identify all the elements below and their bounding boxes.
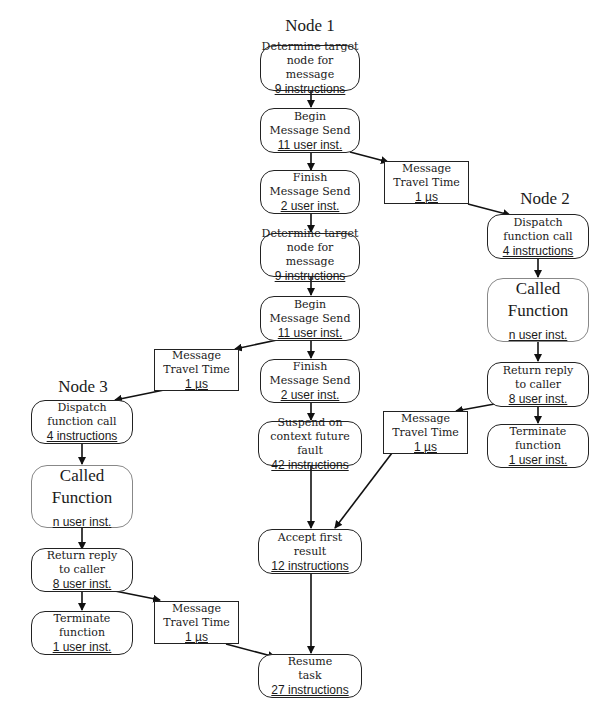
box-title: Called <box>516 278 560 300</box>
box-title: Terminate <box>510 425 567 439</box>
box-cost: 42 instructions <box>271 458 348 472</box>
box-title: function call <box>503 230 572 244</box>
node-3-label: Node 3 <box>43 377 123 397</box>
n1-suspend-box: Suspend on context future fault 42 instr… <box>258 421 362 466</box>
box-cost: 8 user inst. <box>509 392 568 406</box>
box-title: Travel Time <box>392 426 459 440</box>
box-title: Message <box>172 349 221 363</box>
box-cost: 9 instructions <box>275 82 346 96</box>
n3-return-reply-box: Return reply to caller 8 user inst. <box>31 548 133 592</box>
box-cost: 27 instructions <box>271 683 348 697</box>
travel-time-box-2-to-1: Message Travel Time 1 µs <box>383 411 468 454</box>
box-title: Resume <box>288 655 332 669</box>
n1-determine-target-box-2: Determine target node for message 9 inst… <box>260 233 360 277</box>
box-title: Terminate <box>54 612 111 626</box>
box-cost: 9 instructions <box>275 269 346 283</box>
box-title: Accept first <box>278 531 342 545</box>
box-cost: 2 user inst. <box>281 388 340 402</box>
box-title: Message <box>402 162 451 176</box>
n2-called-function-box: Called Function n user inst. <box>487 278 589 342</box>
box-cost: 2 user inst. <box>281 199 340 213</box>
node-2-label: Node 2 <box>505 189 585 209</box>
box-title: Return reply <box>503 364 574 378</box>
box-title: Return reply <box>47 549 118 563</box>
n1-finish-send-box-2: Finish Message Send 2 user inst. <box>260 359 360 403</box>
box-title: Travel Time <box>393 176 460 190</box>
node-1-label: Node 1 <box>270 16 350 36</box>
box-cost: n user inst. <box>509 328 568 342</box>
box-cost: 1 user inst. <box>53 640 112 654</box>
box-title: Travel Time <box>163 616 230 630</box>
box-title: Determine target <box>262 227 359 241</box>
n2-terminate-box: Terminate function 1 user inst. <box>487 424 589 468</box>
box-cost: 1 µs <box>185 630 208 644</box>
box-cost: 1 µs <box>414 440 437 454</box>
box-cost: 8 user inst. <box>53 577 112 591</box>
n1-resume-task-box: Resume task 27 instructions <box>258 654 362 698</box>
travel-time-box-1-to-2: Message Travel Time 1 µs <box>384 161 469 204</box>
box-title: Message <box>172 602 221 616</box>
box-cost: n user inst. <box>53 515 112 529</box>
box-title: result <box>294 545 326 559</box>
box-cost: 1 user inst. <box>509 453 568 467</box>
box-title: Begin <box>294 110 326 124</box>
box-title: task <box>298 669 321 683</box>
box-title: Suspend on <box>277 416 342 430</box>
box-cost: 11 user inst. <box>278 326 342 340</box>
box-title: Message Send <box>270 374 351 388</box>
box-title: to caller <box>515 378 561 392</box>
box-cost: 4 instructions <box>503 244 574 258</box>
n3-dispatch-box: Dispatch function call 4 instructions <box>31 400 133 444</box>
box-cost: 12 instructions <box>271 559 348 573</box>
box-title: Dispatch <box>513 216 562 230</box>
box-title: Message Send <box>270 124 351 138</box>
travel-time-box-1-to-3: Message Travel Time 1 µs <box>154 349 239 391</box>
n1-determine-target-box-1: Determine target node for message 9 inst… <box>260 45 360 91</box>
n1-finish-send-box-1: Finish Message Send 2 user inst. <box>260 170 360 214</box>
box-title: Called <box>60 465 104 487</box>
box-cost: 1 µs <box>415 190 438 204</box>
box-title: context future fault <box>259 430 361 458</box>
box-title: Finish <box>293 171 327 185</box>
n3-called-function-box: Called Function n user inst. <box>31 465 133 528</box>
box-title: node for message <box>261 54 359 82</box>
box-title: Function <box>508 300 568 322</box>
box-title: Determine target <box>262 40 359 54</box>
n2-dispatch-box: Dispatch function call 4 instructions <box>487 214 589 259</box>
box-title: Message Send <box>270 185 351 199</box>
n1-begin-send-box-1: Begin Message Send 11 user inst. <box>260 108 360 153</box>
box-title: Travel Time <box>163 363 230 377</box>
box-cost: 4 instructions <box>47 429 118 443</box>
box-title: function call <box>47 415 116 429</box>
n3-terminate-box: Terminate function 1 user inst. <box>31 611 133 655</box>
box-title: Dispatch <box>57 401 106 415</box>
n2-return-reply-box: Return reply to caller 8 user inst. <box>487 362 589 407</box>
travel-time-box-3-to-1: Message Travel Time 1 µs <box>154 601 239 644</box>
box-title: Message Send <box>270 312 351 326</box>
n1-begin-send-box-2: Begin Message Send 11 user inst. <box>260 296 360 341</box>
box-title: Message <box>401 412 450 426</box>
box-title: node for message <box>261 241 359 269</box>
n1-accept-result-box: Accept first result 12 instructions <box>258 529 362 574</box>
box-title: function <box>59 626 105 640</box>
box-cost: 1 µs <box>185 377 208 391</box>
box-title: Function <box>52 487 112 509</box>
box-cost: 11 user inst. <box>278 138 342 152</box>
box-title: Begin <box>294 298 326 312</box>
box-title: function <box>515 439 561 453</box>
box-title: Finish <box>293 360 327 374</box>
box-title: to caller <box>59 563 105 577</box>
